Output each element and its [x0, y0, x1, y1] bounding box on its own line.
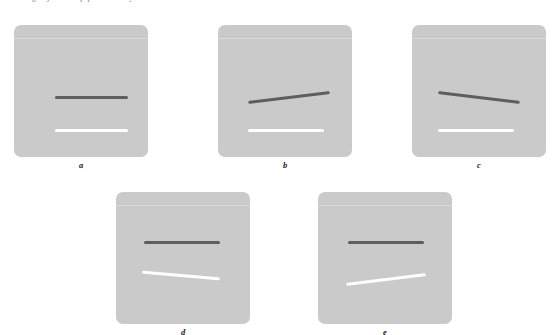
reference-line-c	[438, 91, 520, 104]
stimulus-panel-e	[318, 192, 452, 324]
comparison-line-e	[346, 273, 426, 286]
panel-label-a: a	[14, 160, 148, 170]
reference-line-e	[348, 241, 424, 244]
stimulus-panel-b	[218, 25, 352, 157]
stimulus-panel-d	[116, 192, 250, 324]
panel-seam	[412, 38, 546, 39]
panel-label-b: b	[218, 160, 352, 170]
panel-label-e: e	[318, 327, 452, 335]
comparison-line-b	[248, 129, 324, 132]
reference-line-a	[55, 96, 128, 99]
figure-panel-grid: a b c d e	[0, 0, 553, 335]
reference-line-d	[144, 241, 220, 244]
reference-line-b	[248, 91, 330, 104]
panel-seam	[318, 205, 452, 206]
panel-seam	[14, 38, 148, 39]
comparison-line-d	[142, 271, 220, 281]
panel-seam	[218, 38, 352, 39]
comparison-line-a	[55, 129, 128, 132]
stimulus-panel-a	[14, 25, 148, 157]
panel-label-d: d	[116, 327, 250, 335]
comparison-line-c	[438, 129, 514, 132]
stimulus-panel-c	[412, 25, 546, 157]
panel-label-c: c	[412, 160, 546, 170]
panel-seam	[116, 205, 250, 206]
